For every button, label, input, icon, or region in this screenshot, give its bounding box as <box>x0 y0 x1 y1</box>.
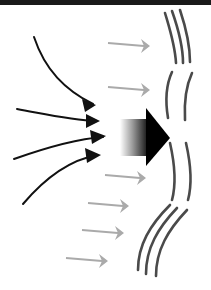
converging-arrow-line <box>23 155 97 204</box>
converging-arrows <box>14 37 106 204</box>
arrowhead-icon <box>85 148 101 163</box>
gray-arrow-line <box>105 175 140 178</box>
wavefront-line <box>185 73 192 120</box>
wavefront-line <box>170 143 174 200</box>
big-arrow <box>120 108 170 166</box>
gray-arrow-line <box>108 43 144 46</box>
converging-arrow-line <box>34 37 93 104</box>
big-arrow-body <box>120 119 148 156</box>
gray-arrow-line <box>66 258 102 261</box>
wavefront-line <box>166 72 172 118</box>
wavefront-line <box>172 11 183 63</box>
arrowhead-icon <box>90 130 106 144</box>
gray-arrow-line <box>82 230 118 233</box>
wavefront-line <box>146 208 177 274</box>
arrowhead-icon <box>86 114 100 128</box>
wavefront-line <box>156 210 187 276</box>
big-arrow-head-icon <box>146 108 170 166</box>
gray-arrow-line <box>108 87 144 90</box>
gray-arrow-line <box>88 203 123 206</box>
wave-diagram <box>0 0 211 290</box>
wavefront-line <box>186 143 190 200</box>
